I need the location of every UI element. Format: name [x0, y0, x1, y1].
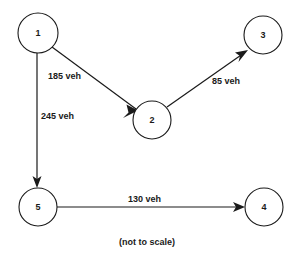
edge-1-to-2: 185 veh — [48, 47, 138, 118]
node-5[interactable]: 5 — [19, 188, 57, 226]
node-4[interactable]: 4 — [245, 188, 283, 226]
edge-label-1-5: 245 veh — [41, 111, 74, 121]
edge-5-to-4: 130 veh — [57, 194, 245, 212]
edge-2-to-3: 85 veh — [167, 50, 248, 107]
node-5-label: 5 — [35, 202, 40, 212]
node-1-label: 1 — [35, 28, 40, 38]
edge-label-5-4: 130 veh — [128, 194, 161, 204]
node-2-label: 2 — [149, 115, 154, 125]
network-diagram: 185 veh 245 veh 85 veh 130 veh — [0, 0, 296, 255]
node-3[interactable]: 3 — [244, 16, 282, 54]
edge-label-2-3: 85 veh — [212, 76, 240, 86]
diagram-caption: (not to scale) — [119, 237, 175, 247]
node-1[interactable]: 1 — [18, 13, 58, 53]
node-2[interactable]: 2 — [133, 101, 171, 139]
node-4-label: 4 — [261, 202, 266, 212]
arrowhead-2-3 — [235, 50, 248, 62]
node-3-label: 3 — [260, 30, 265, 40]
edge-label-1-2: 185 veh — [48, 71, 81, 81]
network-diagram-canvas: 185 veh 245 veh 85 veh 130 veh — [0, 0, 296, 255]
